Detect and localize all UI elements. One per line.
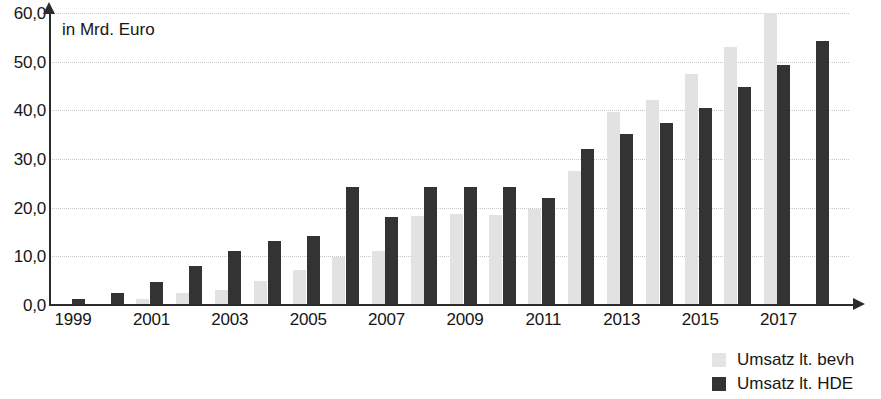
bar-2013-hde [620,134,633,305]
plot-area [49,13,849,305]
legend-item-bevh: Umsatz lt. bevh [712,348,854,372]
y-axis-arrow-icon [43,2,55,14]
bar-2010-bevh [489,215,502,305]
dark-gray-swatch-icon [712,377,726,391]
bar-2011-bevh [528,209,541,305]
gridline [49,13,849,14]
bar-2015-hde [699,108,712,305]
bar-2015-bevh [685,74,698,305]
bar-2006-hde [346,187,359,305]
x-axis-tick-2009: 2009 [441,310,489,329]
bar-2012-hde [581,149,594,305]
bar-2003-bevh [215,290,228,305]
bar-chart: 0,010,020,030,040,050,060,0 in Mrd. Euro… [0,0,881,399]
bar-2011-hde [542,198,555,305]
bar-2005-hde [307,236,320,305]
bar-2007-bevh [372,251,385,305]
bar-2013-bevh [607,112,620,305]
bar-2003-hde [228,251,241,305]
bar-2009-bevh [450,214,463,305]
bar-2012-bevh [568,171,581,305]
y-axis-tick-40-0: 40,0 [2,102,46,119]
bar-2005-bevh [293,270,306,305]
bar-2002-hde [189,266,202,305]
bar-2004-bevh [254,281,267,305]
bar-2008-bevh [411,216,424,305]
x-axis-tick-2011: 2011 [519,310,567,329]
light-gray-swatch-icon [712,353,726,367]
x-axis-tick-2013: 2013 [598,310,646,329]
x-axis-tick-1999: 1999 [49,310,97,329]
y-axis-tick-60-0: 60,0 [2,5,46,22]
legend-label-bevh: Umsatz lt. bevh [737,348,854,372]
x-axis-tick-2017: 2017 [755,310,803,329]
x-axis-tick-2007: 2007 [363,310,411,329]
x-axis-tick-2003: 2003 [206,310,254,329]
y-axis-tick-10-0: 10,0 [2,248,46,265]
bar-2016-bevh [724,47,737,305]
y-axis-line [49,13,51,305]
bar-2017-bevh [764,13,777,305]
legend-label-hde: Umsatz lt. HDE [737,372,853,396]
bar-2008-hde [424,187,437,305]
x-axis-line [49,304,855,306]
legend-item-hde: Umsatz lt. HDE [712,372,854,396]
chart-legend: Umsatz lt. bevh Umsatz lt. HDE [712,348,854,396]
y-axis-tick-labels: 0,010,020,030,040,050,060,0 [0,0,46,399]
bar-2017-hde [777,65,790,305]
x-axis-arrow-icon [853,298,865,310]
bar-2014-hde [660,123,673,305]
bar-2009-hde [464,187,477,305]
bar-2018-hde [816,41,829,305]
x-axis-tick-2005: 2005 [284,310,332,329]
x-axis-tick-2015: 2015 [676,310,724,329]
bar-2004-hde [268,241,281,305]
bar-2001-hde [150,282,163,305]
bar-2010-hde [503,187,516,305]
y-axis-tick-20-0: 20,0 [2,200,46,217]
y-axis-tick-0-0: 0,0 [2,297,46,314]
bar-2007-hde [385,217,398,305]
y-axis-tick-50-0: 50,0 [2,54,46,71]
y-axis-tick-30-0: 30,0 [2,151,46,168]
bar-2006-bevh [332,257,345,305]
bar-2014-bevh [646,100,659,305]
x-axis-tick-2001: 2001 [127,310,175,329]
bar-2016-hde [738,87,751,305]
